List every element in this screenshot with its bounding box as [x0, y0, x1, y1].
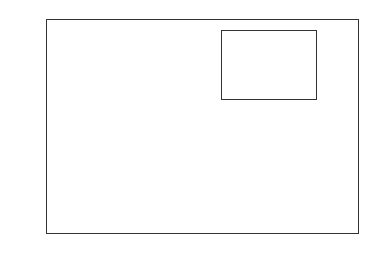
legend — [221, 30, 317, 100]
grants-bar-chart — [0, 0, 368, 272]
